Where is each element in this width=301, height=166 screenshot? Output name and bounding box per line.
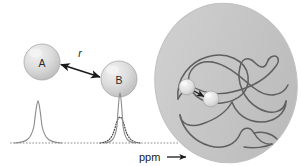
residue-marker-1[interactable] [179, 79, 195, 95]
residue-1-highlight [181, 81, 187, 85]
spectrum-axis: ppm [139, 151, 186, 163]
sphere-a[interactable]: A [24, 44, 60, 80]
protein-blob-shape [145, 0, 301, 166]
sphere-b-label: B [115, 74, 122, 86]
distance-arrow: r [61, 47, 100, 77]
distance-label-r: r [78, 47, 82, 59]
spectrum-peak-b [104, 93, 136, 143]
residue-marker-2[interactable] [203, 91, 219, 107]
distance-arrow-line [61, 65, 100, 78]
spectrum-peak-a [14, 101, 62, 143]
residue-2-body [203, 91, 219, 107]
residue-2-highlight [205, 93, 211, 97]
figure-root: A B r ppm [0, 0, 301, 166]
protein-blob-group [145, 0, 301, 166]
sphere-a-label: A [38, 57, 45, 69]
sphere-b[interactable]: B [101, 61, 137, 97]
spectrum-peak-b-reduced [100, 117, 140, 143]
spin-pair-group: A B r [24, 44, 137, 97]
residue-1-body [179, 79, 195, 95]
spectrum-axis-label: ppm [139, 151, 160, 163]
